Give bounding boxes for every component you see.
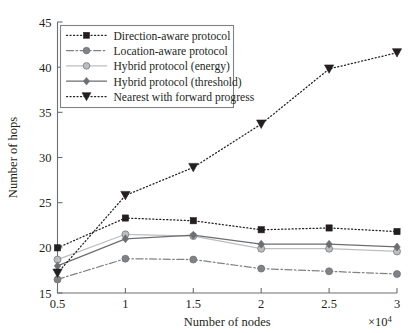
- x-axis-title: Number of nodes: [184, 315, 271, 329]
- x-tick-label: 1: [122, 297, 128, 311]
- x-tick-label: 2.5: [321, 297, 337, 311]
- marker-circle: [258, 265, 265, 272]
- marker-circle: [394, 271, 401, 278]
- series-line-3: [58, 235, 398, 266]
- marker-square: [258, 227, 264, 233]
- marker-circle: [83, 63, 90, 70]
- series-line-1: [58, 259, 398, 280]
- chart-svg: 152025303540450.511.522.53Number of node…: [0, 0, 413, 333]
- series-line-2: [58, 234, 398, 259]
- y-tick-label: 20: [39, 241, 52, 255]
- legend-label-1: Location-aware protocol: [114, 45, 228, 58]
- legend-label-3: Hybrid protocol (threshold): [114, 76, 242, 89]
- marker-triangle-down: [53, 269, 62, 277]
- marker-square: [54, 245, 60, 251]
- y-axis-title: Number of hops: [6, 117, 20, 198]
- marker-square: [122, 215, 128, 221]
- marker-circle: [83, 47, 90, 54]
- y-tick-label: 25: [39, 196, 52, 210]
- marker-triangle-down: [189, 163, 198, 171]
- marker-triangle-down: [392, 49, 401, 57]
- legend-label-4: Nearest with forward progress: [114, 91, 255, 104]
- y-tick-label: 45: [39, 16, 52, 30]
- series-line-0: [58, 218, 398, 248]
- x-axis-multiplier: ×104: [368, 314, 393, 330]
- legend-label-2: Hybrid protocol (energy): [114, 60, 230, 73]
- y-tick-label: 35: [39, 106, 52, 120]
- x-tick-label: 1.5: [185, 297, 201, 311]
- marker-circle: [190, 256, 197, 263]
- hops-vs-nodes-chart: 152025303540450.511.522.53Number of node…: [0, 0, 413, 333]
- y-tick-label: 40: [39, 61, 52, 75]
- marker-square: [84, 32, 90, 38]
- x-tick-label: 3: [394, 297, 400, 311]
- marker-circle: [122, 255, 129, 262]
- marker-square: [326, 225, 332, 231]
- legend-label-0: Direction-aware protocol: [114, 30, 231, 43]
- marker-circle: [326, 268, 333, 275]
- x-tick-label: 0.5: [50, 297, 66, 311]
- marker-square: [394, 228, 400, 234]
- marker-triangle-down: [257, 120, 266, 128]
- marker-square: [190, 218, 196, 224]
- marker-diamond: [54, 262, 61, 270]
- x-axis-multiplier-exponent: 4: [388, 314, 393, 324]
- x-axis-multiplier-base: ×10: [368, 315, 388, 329]
- y-tick-label: 30: [39, 151, 52, 165]
- x-tick-label: 2: [258, 297, 264, 311]
